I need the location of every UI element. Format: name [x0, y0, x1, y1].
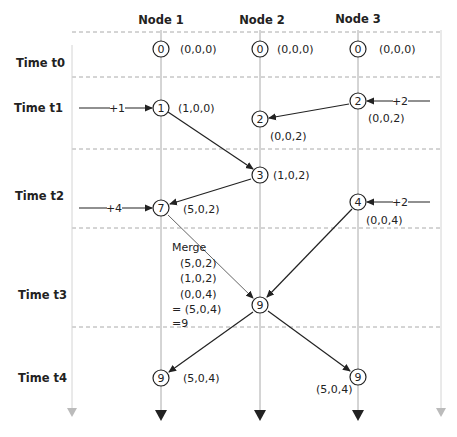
vector-n3-t4: (5,0,4)	[316, 383, 353, 396]
merge-line-2: (1,0,2)	[180, 272, 217, 285]
event-n1-t1: 1	[153, 100, 169, 116]
message-n1-to-n2-t2	[168, 112, 253, 169]
vector-n2-t0: (0,0,0)	[277, 43, 314, 56]
event-n3-t1: 2	[350, 93, 366, 109]
event-value: 0	[257, 43, 264, 56]
message-n2-to-n3-t4	[268, 311, 350, 371]
event-value: 9	[257, 299, 264, 312]
event-n3-t0: 0	[350, 41, 366, 57]
message-n2-to-n1-t2	[170, 179, 251, 204]
event-value: 1	[158, 102, 165, 115]
vector-n3-t2: (0,0,4)	[366, 214, 403, 227]
vector-clock-diagram: Node 1 Node 2 Node 3 Time t0 Time t1 Tim…	[0, 0, 457, 437]
time-label-t0: Time t0	[16, 56, 65, 70]
vector-n1-t1: (1,0,0)	[178, 102, 215, 115]
vector-n2-t1: (0,0,2)	[270, 130, 307, 143]
increment-label-n1-t2: +4	[106, 202, 122, 215]
increment-label-n1-t1: +1	[109, 102, 125, 115]
event-n2-t0: 0	[252, 41, 268, 57]
event-n2-t3: 9	[252, 297, 268, 313]
node3-timeline-arrow-icon	[352, 410, 364, 421]
vector-n2-t2: (1,0,2)	[273, 169, 310, 182]
merge-annotation: Merge (5,0,2) (1,0,2) (0,0,4) = (5,0,4) …	[172, 241, 221, 330]
time-label-t4: Time t4	[18, 371, 67, 385]
node1-header: Node 1	[138, 13, 184, 27]
vector-n1-t0: (0,0,0)	[180, 43, 217, 56]
message-n3-to-n2-t1	[269, 104, 349, 118]
right-axis-arrow-icon	[436, 408, 446, 417]
event-value: 3	[257, 169, 264, 182]
time-label-t1: Time t1	[14, 101, 63, 115]
node2-timeline-arrow-icon	[254, 410, 266, 421]
vector-n1-t4: (5,0,4)	[183, 372, 220, 385]
vector-n3-t0: (0,0,0)	[379, 43, 416, 56]
merge-line-3: (0,0,4)	[180, 288, 217, 301]
event-n1-t4: 9	[153, 370, 169, 386]
node-timelines	[161, 30, 358, 410]
merge-title: Merge	[172, 241, 207, 254]
message-n3-to-n2-t3	[267, 209, 352, 297]
event-n2-t2: 3	[252, 167, 268, 183]
event-n2-t1: 2	[252, 111, 268, 127]
vector-n3-t1: (0,0,2)	[368, 112, 405, 125]
node1-timeline-arrow-icon	[155, 410, 167, 421]
event-n1-t2: 7	[153, 200, 169, 216]
node2-header: Node 2	[239, 13, 285, 27]
left-axis-arrow-icon	[67, 408, 77, 417]
time-label-t2: Time t2	[15, 189, 64, 203]
event-value: 7	[158, 202, 165, 215]
increment-label-n3-t1: +2	[392, 95, 408, 108]
increment-label-n3-t2: +2	[392, 196, 408, 209]
event-value: 2	[257, 113, 264, 126]
merge-total: =9	[172, 317, 188, 330]
event-value: 4	[355, 196, 362, 209]
event-value: 9	[158, 372, 165, 385]
merge-line-1: (5,0,2)	[180, 257, 217, 270]
event-value: 0	[355, 43, 362, 56]
vector-n1-t2: (5,0,2)	[183, 203, 220, 216]
node3-header: Node 3	[335, 12, 381, 26]
event-n1-t0: 0	[153, 41, 169, 57]
time-label-t3: Time t3	[18, 288, 67, 302]
event-value: 9	[355, 371, 362, 384]
event-value: 0	[158, 43, 165, 56]
merge-result: = (5,0,4)	[172, 303, 221, 316]
event-value: 2	[355, 95, 362, 108]
event-n3-t2: 4	[350, 194, 366, 210]
